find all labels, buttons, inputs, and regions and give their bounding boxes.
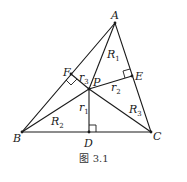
- label-r2-big: R2: [50, 115, 64, 130]
- label-f: F: [62, 66, 71, 79]
- label-r3-small: r3: [79, 71, 89, 86]
- point-e: [131, 75, 134, 78]
- label-r1-big: R1: [106, 48, 120, 63]
- label-c: C: [153, 130, 162, 143]
- label-r1-small: r1: [79, 101, 89, 116]
- point-a: [114, 22, 117, 25]
- label-e: E: [134, 70, 143, 83]
- label-r3-big: R3: [128, 103, 142, 118]
- point-p: [88, 88, 91, 91]
- label-r2-small: r2: [111, 81, 121, 96]
- label-d: D: [83, 137, 93, 150]
- point-c: [150, 131, 153, 134]
- point-d: [88, 131, 91, 134]
- label-b: B: [12, 132, 21, 145]
- figure-caption: 图 3.1: [79, 153, 108, 164]
- label-a: A: [110, 9, 119, 22]
- triangle-diagram: A B C P D E F R1 R2 R3 r1 r2 r3 图 3.1: [0, 0, 187, 182]
- right-angle-f: [66, 79, 77, 85]
- right-angle-d: [89, 125, 96, 132]
- label-p: P: [92, 76, 101, 89]
